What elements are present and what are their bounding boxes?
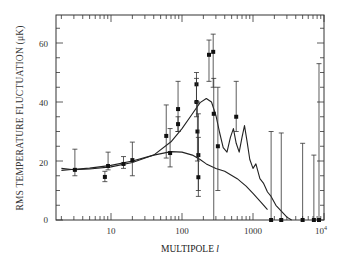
data-point	[206, 40, 211, 81]
x-tick-10000: 104	[315, 225, 327, 236]
x-tick-1000: 1000	[244, 226, 263, 236]
data-point	[300, 143, 305, 222]
data-points	[72, 34, 321, 222]
x-axis-label: MULTIPOLE l	[161, 244, 219, 254]
data-point	[234, 81, 239, 131]
data-point	[121, 157, 126, 169]
cmb-power-spectrum-chart: 0 20 40 60 10 100 1000 104 RMS TEMPERATU…	[0, 0, 343, 265]
model-flat-curve	[61, 152, 267, 210]
data-point	[196, 137, 201, 190]
data-point	[164, 105, 169, 158]
x-tick-labels: 10 100 1000 104	[107, 225, 328, 236]
y-tick-labels: 0 20 40 60	[39, 39, 49, 225]
x-tick-100: 100	[175, 226, 189, 236]
data-point	[168, 129, 173, 167]
data-point	[215, 87, 220, 190]
data-point	[102, 171, 107, 181]
y-tick-0: 0	[44, 215, 49, 225]
data-point	[269, 132, 274, 223]
data-point	[211, 78, 216, 220]
y-tick-20: 20	[39, 158, 49, 168]
y-tick-40: 40	[39, 98, 49, 108]
y-axis-label: RMS TEMPERATURE FLUCTUATION (μK)	[15, 25, 26, 210]
data-point	[72, 149, 77, 176]
data-point	[211, 34, 216, 87]
data-point	[195, 102, 200, 161]
y-tick-60: 60	[39, 39, 49, 49]
data-point	[176, 117, 181, 132]
data-point	[106, 152, 111, 170]
x-tick-10: 10	[107, 226, 117, 236]
data-point	[130, 142, 135, 176]
data-point	[311, 155, 316, 222]
